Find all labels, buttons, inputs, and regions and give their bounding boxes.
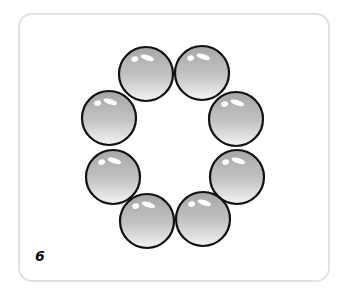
ball-ring	[0, 0, 349, 298]
ball	[209, 92, 263, 146]
card-number-label: 6	[35, 248, 45, 264]
ball	[86, 150, 140, 204]
ball	[176, 192, 230, 246]
ball	[175, 46, 229, 100]
ball	[119, 47, 173, 101]
ball	[120, 194, 174, 248]
ball	[82, 91, 136, 145]
